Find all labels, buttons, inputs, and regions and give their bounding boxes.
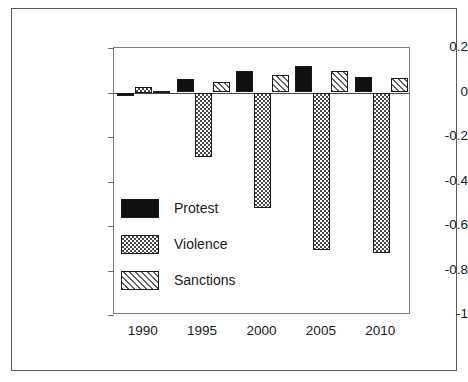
- legend-swatch-violence-icon: [121, 235, 159, 254]
- bar-sanctions-2005: [331, 71, 348, 92]
- legend-label-violence: Violence: [174, 236, 227, 252]
- x-axis-tick-label: 1990: [113, 324, 173, 338]
- x-axis-tick-label: 2000: [232, 324, 292, 338]
- bar-protest-2000: [236, 71, 253, 92]
- bar-protest-2010: [355, 77, 372, 93]
- bar-violence-2010: [373, 93, 390, 253]
- legend-label-protest: Protest: [174, 200, 218, 216]
- legend-item-protest: Protest: [121, 190, 271, 226]
- legend-swatch-protest-icon: [121, 199, 159, 218]
- bar-sanctions-1990: [153, 91, 170, 93]
- bar-protest-1995: [177, 79, 194, 92]
- legend: Protest Violence Sanctions: [121, 190, 271, 298]
- x-axis-tick-label: 2005: [291, 324, 351, 338]
- legend-item-violence: Violence: [121, 226, 271, 262]
- x-axis-tick-label: 2010: [350, 324, 410, 338]
- bar-sanctions-1995: [213, 82, 230, 92]
- bar-violence-1995: [195, 93, 212, 158]
- legend-swatch-sanctions-icon: [121, 271, 159, 290]
- legend-label-sanctions: Sanctions: [174, 272, 235, 288]
- bar-sanctions-2010: [391, 78, 408, 92]
- legend-item-sanctions: Sanctions: [121, 262, 271, 298]
- bar-protest-1990: [117, 93, 134, 96]
- bar-sanctions-2000: [272, 75, 289, 93]
- y-axis-tick: [108, 315, 114, 316]
- bar-violence-2005: [313, 93, 330, 251]
- bar-protest-2005: [295, 66, 312, 93]
- x-axis-tick-label: 1995: [172, 324, 232, 338]
- bar-violence-1990: [135, 87, 152, 93]
- figure: Percent Change from Reference Run 0.20-0…: [0, 0, 468, 382]
